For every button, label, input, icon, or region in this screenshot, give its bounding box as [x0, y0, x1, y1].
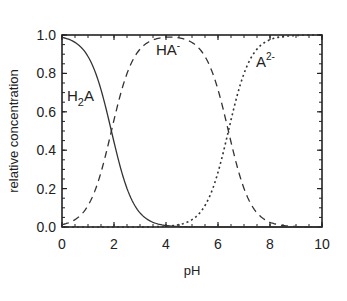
y-tick-label: 0.2 [37, 181, 57, 197]
curve-a2- [62, 35, 322, 227]
y-tick-label: 1.0 [37, 27, 57, 43]
x-tick-label: 4 [162, 236, 170, 252]
y-tick-label: 0.8 [37, 65, 57, 81]
y-axis-title: relative concentration [6, 69, 21, 193]
label-ha-minus: HA- [156, 40, 180, 58]
label-h2a: H2A [67, 87, 94, 108]
x-tick-label: 6 [214, 236, 222, 252]
y-tick-label: 0.0 [37, 219, 57, 235]
y-tick-label: 0.6 [37, 104, 57, 120]
speciation-chart: 02468100.00.20.40.60.81.0 pH relative co… [0, 0, 347, 301]
axis-tick-labels: 02468100.00.20.40.60.81.0 [37, 27, 330, 252]
axis-ticks [62, 35, 322, 227]
x-tick-label: 8 [266, 236, 274, 252]
x-tick-label: 10 [314, 236, 330, 252]
x-tick-label: 2 [110, 236, 118, 252]
y-tick-label: 0.4 [37, 142, 57, 158]
label-a2-minus: A2- [256, 51, 275, 70]
curve-ha- [62, 37, 322, 227]
x-axis-title: pH [184, 263, 201, 278]
plot-frame [62, 35, 322, 227]
species-curves [62, 35, 322, 227]
curve-h2a [62, 37, 322, 227]
x-tick-label: 0 [58, 236, 66, 252]
plot-border [62, 35, 322, 227]
